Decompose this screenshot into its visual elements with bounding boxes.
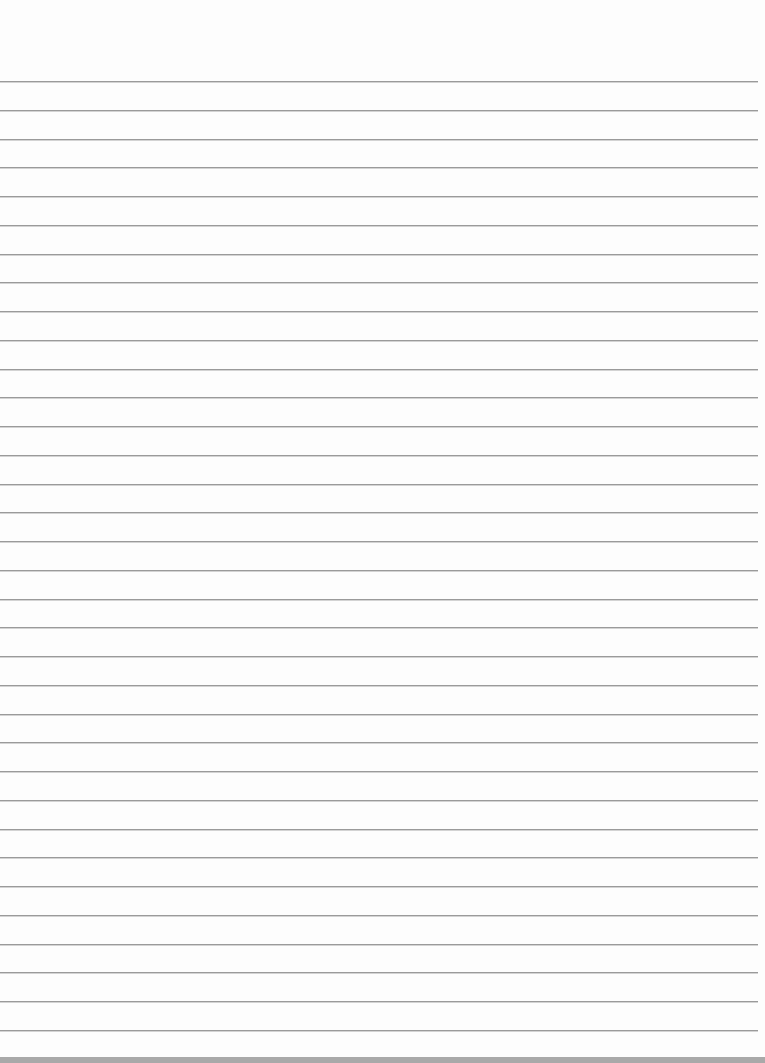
ruled-line — [0, 110, 758, 111]
ruled-line — [0, 369, 758, 370]
ruled-line — [0, 685, 758, 686]
ruled-line — [0, 397, 758, 398]
ruled-line — [0, 512, 758, 513]
ruled-line — [0, 800, 758, 801]
ruled-line — [0, 714, 758, 715]
ruled-line — [0, 484, 758, 485]
ruled-line — [0, 886, 758, 887]
ruled-line — [0, 311, 758, 312]
ruled-line — [0, 1030, 758, 1031]
ruled-line — [0, 282, 758, 283]
ruled-line — [0, 225, 758, 226]
ruled-line — [0, 426, 758, 427]
ruled-line — [0, 196, 758, 197]
ruled-line — [0, 81, 758, 82]
ruled-line — [0, 139, 758, 140]
ruled-line — [0, 627, 758, 628]
ruled-line — [0, 944, 758, 945]
ruled-line — [0, 742, 758, 743]
ruled-line — [0, 656, 758, 657]
ruled-line — [0, 254, 758, 255]
ruled-line — [0, 829, 758, 830]
ruled-line — [0, 167, 758, 168]
ruled-line — [0, 599, 758, 600]
scan-bottom-edge — [0, 1057, 765, 1063]
ruled-line — [0, 455, 758, 456]
ruled-line — [0, 771, 758, 772]
ruled-line — [0, 541, 758, 542]
ruled-line — [0, 972, 758, 973]
lined-paper-sheet — [0, 0, 765, 1057]
ruled-line — [0, 340, 758, 341]
ruled-line — [0, 915, 758, 916]
ruled-line — [0, 857, 758, 858]
ruled-line — [0, 1001, 758, 1002]
ruled-line — [0, 570, 758, 571]
